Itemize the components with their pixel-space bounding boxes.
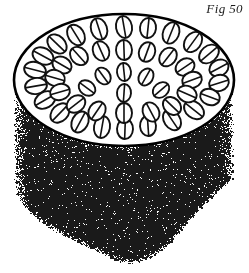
vascular-bundle	[116, 103, 132, 123]
vascular-bundle	[116, 62, 132, 81]
vascular-bundle	[116, 84, 131, 103]
figure-container: Fig 50	[0, 0, 249, 273]
vascular-bundle	[116, 40, 133, 61]
specimen-line-art	[0, 0, 249, 273]
figure-label: Fig 50	[206, 1, 243, 17]
